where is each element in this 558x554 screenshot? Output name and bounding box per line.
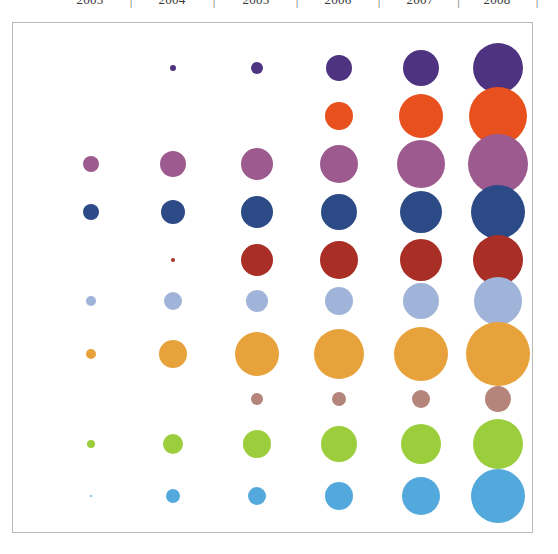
bubble-s2-c5 xyxy=(399,94,443,138)
bubble-s9-c1 xyxy=(87,440,95,448)
bubble-s3-c5 xyxy=(397,140,445,188)
tick-text: 2003 xyxy=(77,0,104,8)
x-tick-label-2006: 2006 xyxy=(325,0,352,8)
bubble-s3-c4 xyxy=(320,145,358,183)
x-tick-label-2008: 2008 xyxy=(484,0,511,8)
x-tick-label-2007: 2007 xyxy=(407,0,434,8)
bubble-s7-c4 xyxy=(314,329,364,379)
bubble-s10-c6 xyxy=(471,469,525,523)
bubble-s8-c3 xyxy=(251,393,263,405)
bubble-s7-c5 xyxy=(394,327,448,381)
bubble-s1-c4 xyxy=(326,55,352,81)
x-tick-separator: | xyxy=(213,0,216,9)
plot-area-frame xyxy=(12,22,533,533)
bubble-s4-c6 xyxy=(471,185,525,239)
bubble-s5-c4 xyxy=(320,241,358,279)
bubble-s4-c5 xyxy=(400,191,442,233)
bubble-s1-c2 xyxy=(170,65,176,71)
bubble-s6-c4 xyxy=(325,287,353,315)
x-tick-separator: | xyxy=(130,0,133,9)
bubble-s5-c2 xyxy=(171,258,175,262)
tick-text: 2004 xyxy=(159,0,186,8)
bubble-s8-c4 xyxy=(332,392,346,406)
bubble-s1-c5 xyxy=(403,50,439,86)
top-axis-tick-labels: 2003|2004|2005|2006|2007|2008| xyxy=(0,0,558,14)
x-tick-separator: | xyxy=(457,0,460,9)
bubble-s6-c5 xyxy=(403,283,439,319)
bubble-s9-c5 xyxy=(401,424,441,464)
bubble-s10-c3 xyxy=(248,487,266,505)
bubble-s9-c6 xyxy=(473,419,523,469)
bubble-s10-c4 xyxy=(325,482,353,510)
x-tick-label-2003: 2003 xyxy=(77,0,104,8)
bubble-s3-c3 xyxy=(241,148,273,180)
bubble-s6-c3 xyxy=(246,290,268,312)
bubble-s7-c1 xyxy=(86,349,96,359)
x-tick-label-2005: 2005 xyxy=(243,0,270,8)
x-tick-label-2004: 2004 xyxy=(159,0,186,8)
bubble-s6-c1 xyxy=(86,296,96,306)
x-tick-separator: | xyxy=(296,0,299,9)
bubble-s5-c5 xyxy=(400,239,442,281)
bubble-s10-c1 xyxy=(90,495,92,497)
bubble-layer xyxy=(13,23,532,532)
tick-text: 2007 xyxy=(407,0,434,8)
bubble-s7-c6 xyxy=(466,322,530,386)
bubble-s3-c1 xyxy=(83,156,99,172)
bubble-s7-c2 xyxy=(159,340,187,368)
bubble-s6-c6 xyxy=(474,277,522,325)
bubble-s8-c5 xyxy=(412,390,430,408)
tick-text: 2008 xyxy=(484,0,511,8)
bubble-s1-c6 xyxy=(473,43,523,93)
tick-text: 2005 xyxy=(243,0,270,8)
bubble-s8-c6 xyxy=(485,386,511,412)
bubble-s4-c3 xyxy=(241,196,273,228)
bubble-s10-c2 xyxy=(166,489,180,503)
bubble-s7-c3 xyxy=(235,332,279,376)
bubble-s5-c3 xyxy=(241,244,273,276)
bubble-chart-figure: 2003|2004|2005|2006|2007|2008| xyxy=(0,0,558,554)
bubble-s10-c5 xyxy=(402,477,440,515)
bubble-s2-c4 xyxy=(325,102,353,130)
bubble-s6-c2 xyxy=(164,292,182,310)
bubble-s1-c3 xyxy=(251,62,263,74)
bubble-s9-c2 xyxy=(163,434,183,454)
x-tick-separator: | xyxy=(378,0,381,9)
bubble-s4-c2 xyxy=(161,200,185,224)
bubble-s3-c2 xyxy=(160,151,186,177)
bubble-s4-c1 xyxy=(83,204,99,220)
bubble-s9-c3 xyxy=(243,430,271,458)
bubble-s9-c4 xyxy=(321,426,357,462)
bubble-s4-c4 xyxy=(321,194,357,230)
tick-text: 2006 xyxy=(325,0,352,8)
x-tick-separator: | xyxy=(536,0,539,9)
